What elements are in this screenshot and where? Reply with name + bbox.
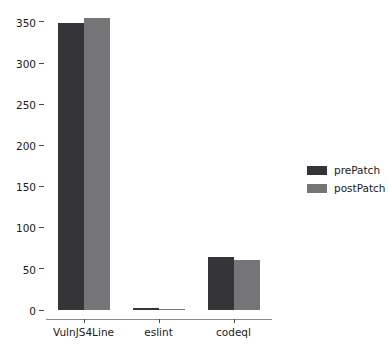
y-axis-tick-label: 350 (16, 17, 36, 28)
y-axis-tick-mark (39, 21, 44, 22)
legend-swatch-icon (307, 166, 327, 175)
y-axis-tick-label: 100 (16, 223, 36, 234)
bar-vulnjs4line-prepatch (58, 23, 84, 310)
legend-item-prepatch[interactable]: prePatch (307, 163, 386, 178)
y-axis-tick-mark (39, 145, 44, 146)
x-axis-tick-label: VulnJS4Line (53, 327, 114, 338)
y-axis-tick-label: 200 (16, 141, 36, 152)
bar-vulnjs4line-postpatch (84, 18, 110, 310)
y-axis-tick-mark (39, 186, 44, 187)
x-axis-tick-mark (84, 319, 85, 323)
bar-chart-figure: 050100150200250300350 VulnJS4Lineeslintc… (0, 0, 389, 362)
chart-legend: prePatchpostPatch (307, 163, 386, 199)
y-axis-tick-mark (39, 227, 44, 228)
bar-codeql-prepatch (208, 257, 234, 311)
bar-group (208, 12, 260, 310)
y-axis-tick-label: 300 (16, 58, 36, 69)
x-axis-tick-label: codeql (216, 327, 251, 338)
plot-area (46, 12, 271, 310)
y-axis-tick-label: 50 (23, 264, 36, 275)
y-axis-tick-mark (39, 104, 44, 105)
y-axis-tick-label: 150 (16, 182, 36, 193)
bar-codeql-postpatch (234, 260, 260, 310)
y-axis-tick-label: 250 (16, 99, 36, 110)
y-axis-tick-mark (39, 63, 44, 64)
bar-group (58, 12, 110, 310)
bar-eslint-prepatch (133, 308, 159, 310)
y-axis-tick-label: 0 (29, 305, 36, 316)
y-axis-tick-mark (39, 310, 44, 311)
legend-label: postPatch (334, 183, 386, 194)
bar-group (133, 12, 185, 310)
y-axis-tick-mark (39, 268, 44, 269)
x-axis-tick-label: eslint (144, 327, 173, 338)
x-axis-tick-mark (234, 319, 235, 323)
legend-item-postpatch[interactable]: postPatch (307, 181, 386, 196)
bar-eslint-postpatch (159, 309, 185, 311)
x-axis-tick-mark (159, 319, 160, 323)
legend-swatch-icon (307, 184, 327, 193)
legend-label: prePatch (334, 165, 380, 176)
